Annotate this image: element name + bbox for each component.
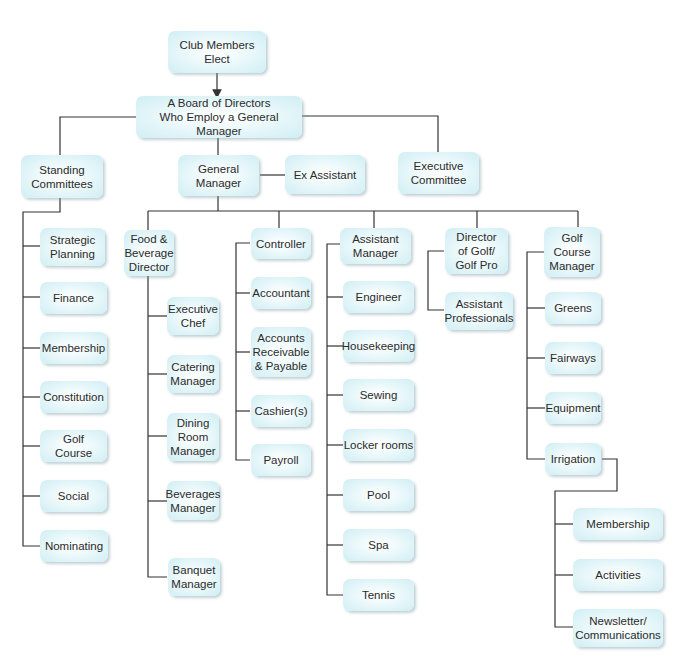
node-committee-finance: Finance [40,282,107,314]
node-committee-nominating: Nominating [40,530,108,562]
node-standing-committees: Standing Committees [21,155,103,198]
node-label: Executive Chef [168,302,218,330]
node-label: Greens [554,301,592,315]
node-executive-committee: Executive Committee [398,152,479,194]
node-label: Activities [595,568,640,582]
node-label: Spa [368,538,388,552]
node-general-manager: General Manager [178,155,259,196]
node-label: Ex Assistant [294,168,357,182]
node-catering-manager: Catering Manager [167,355,219,393]
node-cashiers: Cashier(s) [251,395,311,427]
node-label: Tennis [362,588,395,602]
node-label: Membership [586,517,649,531]
node-label: Engineer [355,290,401,304]
node-label: Cashier(s) [254,404,307,418]
node-label: Standing Committees [31,163,92,191]
node-ex-assistant: Ex Assistant [285,155,365,194]
node-club-members-elect: Club Members Elect [168,31,266,73]
node-fairways: Fairways [545,342,601,374]
node-label: Accountant [252,286,310,300]
node-label: Club Members Elect [180,38,255,66]
node-label: Equipment [546,401,601,415]
node-banquet-manager: Banquet Manager [168,558,220,596]
node-irrigation-newsletter: Newsletter/ Communications [573,609,663,647]
node-label: Beverages Manager [166,487,221,515]
node-dining-room-manager: Dining Room Manager [167,413,219,461]
node-tennis: Tennis [343,579,414,611]
node-label: Executive Committee [411,159,467,187]
node-label: Finance [53,291,94,305]
node-executive-chef: Executive Chef [167,297,219,335]
node-sewing: Sewing [343,379,414,411]
node-label: Locker rooms [344,438,414,452]
node-label: Pool [367,488,390,502]
node-pool: Pool [343,479,414,511]
node-fb-director: Food & Beverage Director [124,230,174,276]
node-engineer: Engineer [343,281,414,313]
node-accounts-receivable-payable: Accounts Receivable & Payable [251,327,311,377]
node-beverages-manager: Beverages Manager [167,481,219,520]
node-accountant: Accountant [251,277,311,309]
node-assistant-manager: Assistant Manager [340,228,411,264]
node-housekeeping: Housekeeping [343,330,414,362]
node-controller: Controller [251,228,311,259]
node-irrigation: Irrigation [545,443,601,475]
node-label: Catering Manager [170,360,215,388]
node-spa: Spa [343,529,414,561]
node-golf-course-manager: Golf Course Manager [544,227,600,277]
node-label: Food & Beverage Director [124,232,173,274]
node-label: Controller [256,237,306,251]
node-committee-golf-course: Golf Course [40,430,107,462]
node-label: Membership [42,341,105,355]
node-label: Sewing [360,388,398,402]
node-label: Irrigation [551,452,596,466]
node-label: Housekeeping [342,339,416,353]
node-director-of-golf: Director of Golf/ Golf Pro [445,228,508,274]
node-locker-rooms: Locker rooms [343,429,414,461]
node-label: Assistant Manager [352,232,399,260]
node-greens: Greens [545,292,601,324]
node-assistant-professionals: Assistant Professionals [445,292,513,330]
node-committee-social: Social [40,480,107,512]
node-label: Payroll [263,453,298,467]
node-label: Banquet Manager [171,563,216,591]
node-label: Constitution [43,390,104,404]
node-equipment: Equipment [545,392,601,424]
node-irrigation-membership: Membership [573,508,663,540]
node-irrigation-activities: Activities [573,559,663,591]
node-label: Dining Room Manager [170,416,215,458]
node-label: Social [58,489,89,503]
node-label: Golf Course [43,432,104,460]
node-label: Strategic Planning [50,233,95,261]
node-label: Fairways [550,351,596,365]
node-label: Director of Golf/ Golf Pro [455,230,497,272]
node-committee-constitution: Constitution [40,381,107,413]
node-payroll: Payroll [251,444,311,476]
node-committee-membership: Membership [40,332,107,364]
node-board-of-directors: A Board of Directors Who Employ a Genera… [136,96,302,138]
node-label: General Manager [196,162,241,190]
node-committee-strategic-planning: Strategic Planning [40,228,105,266]
node-label: A Board of Directors Who Employ a Genera… [139,96,299,138]
node-label: Golf Course Manager [549,231,594,273]
node-label: Accounts Receivable & Payable [253,331,310,373]
node-label: Newsletter/ Communications [575,614,661,642]
node-label: Assistant Professionals [444,297,513,325]
node-label: Nominating [45,539,103,553]
